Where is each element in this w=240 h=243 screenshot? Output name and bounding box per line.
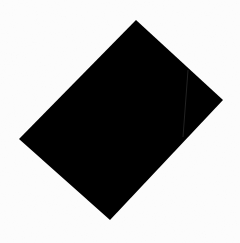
image-svg <box>0 0 240 243</box>
image-canvas <box>0 0 240 243</box>
